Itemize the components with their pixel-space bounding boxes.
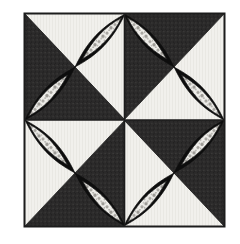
quadrant-top-right <box>124 14 224 120</box>
quadrant-bottom-left <box>25 120 125 226</box>
quadrant-top-left <box>25 14 125 120</box>
quilt-block-illustration <box>0 0 240 244</box>
quadrant-bottom-right <box>124 120 224 226</box>
image-canvas <box>0 0 240 244</box>
quilt-block <box>24 13 225 227</box>
